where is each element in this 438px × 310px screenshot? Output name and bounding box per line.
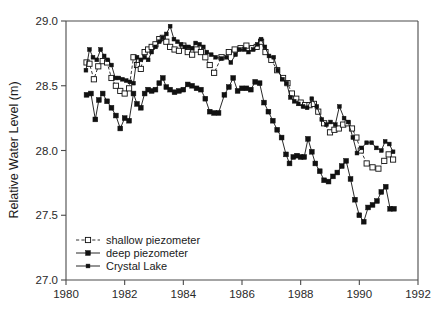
marker-open-square (198, 49, 203, 54)
marker-filled-square (262, 100, 267, 105)
marker-filled-dot (370, 141, 374, 145)
marker-filled-square (244, 86, 249, 91)
marker-open-square (126, 86, 131, 91)
marker-filled-square (222, 92, 227, 97)
marker-filled-dot (164, 32, 168, 36)
y-tick-label: 27.5 (36, 209, 58, 221)
marker-filled-square (375, 199, 380, 204)
marker-open-square (91, 77, 96, 82)
marker-filled-square (306, 136, 311, 141)
marker-filled-dot (379, 149, 383, 153)
x-tick-label: 1988 (288, 288, 314, 300)
marker-filled-dot (292, 99, 296, 103)
marker-filled-dot (342, 116, 346, 120)
marker-filled-dot (220, 57, 224, 61)
marker-filled-dot (143, 55, 147, 59)
marker-open-square (226, 49, 231, 54)
marker-filled-dot (276, 68, 280, 72)
marker-filled-square (160, 76, 165, 81)
x-tick-label: 1980 (53, 288, 79, 300)
marker-filled-dot (285, 81, 289, 85)
marker-filled-square (172, 90, 177, 95)
marker-filled-dot (305, 106, 309, 110)
marker-filled-square (326, 179, 331, 184)
marker-filled-dot (205, 50, 209, 54)
marker-filled-dot (102, 54, 106, 58)
marker-filled-dot (320, 118, 324, 122)
marker-filled-dot (95, 58, 99, 62)
marker-filled-dot (187, 45, 191, 49)
marker-filled-dot (315, 105, 319, 109)
marker-filled-square (331, 174, 336, 179)
marker-filled-square (302, 155, 307, 160)
marker-filled-square (257, 81, 262, 86)
marker-filled-square (181, 87, 186, 92)
marker-filled-square (177, 89, 182, 94)
marker-filled-square (270, 118, 275, 123)
marker-filled-dot (198, 42, 202, 46)
series-line-1 (87, 78, 394, 222)
series-deep-piezometer (84, 76, 396, 225)
x-tick-label: 1984 (171, 288, 197, 300)
marker-filled-dot (179, 42, 183, 46)
marker-filled-dot (172, 37, 176, 41)
marker-open-square (370, 165, 375, 170)
marker-filled-square (131, 91, 136, 96)
marker-open-square (364, 161, 369, 166)
marker-filled-dot (225, 55, 229, 59)
marker-filled-dot (84, 68, 88, 72)
marker-filled-dot (146, 58, 150, 62)
marker-filled-square (348, 177, 353, 182)
marker-open-square (96, 64, 101, 69)
marker-filled-square (96, 98, 101, 103)
marker-filled-square (253, 79, 258, 84)
marker-filled-dot (238, 48, 242, 52)
y-tick-label: 27.0 (36, 274, 58, 286)
marker-filled-square (100, 91, 105, 96)
marker-filled-square (279, 135, 284, 140)
marker-filled-dot (110, 63, 114, 67)
marker-filled-dot (157, 40, 161, 44)
marker-filled-square (203, 96, 208, 101)
marker-filled-square (361, 219, 366, 224)
marker-filled-dot (374, 146, 378, 150)
marker-filled-dot (337, 105, 341, 109)
marker-filled-dot (289, 96, 293, 100)
marker-filled-square (287, 161, 292, 166)
marker-open-square (113, 83, 118, 88)
chart-figure: 27.027.528.028.529.019801982198419861988… (0, 0, 438, 310)
marker-filled-dot (229, 61, 233, 65)
marker-filled-dot (209, 53, 213, 57)
marker-filled-square (313, 161, 318, 166)
marker-filled-dot (301, 105, 305, 109)
marker-filled-dot (281, 77, 285, 81)
marker-filled-square (109, 105, 114, 110)
marker-filled-square (127, 118, 132, 123)
marker-filled-square (266, 109, 271, 114)
marker-filled-square (392, 206, 397, 211)
marker-filled-dot (214, 55, 218, 59)
marker-filled-dot (201, 45, 205, 49)
series-shallow-piezometer (84, 35, 396, 171)
marker-filled-dot (161, 36, 165, 40)
marker-filled-square (216, 111, 221, 116)
marker-filled-square (212, 111, 217, 116)
marker-filled-square (194, 86, 199, 91)
marker-filled-square (122, 116, 127, 121)
marker-filled-dot (355, 151, 359, 155)
marker-filled-square (240, 86, 245, 91)
marker-filled-square (93, 117, 98, 122)
marker-filled-square (357, 213, 362, 218)
chart-legend: shallow piezometerdeep piezometerCrystal… (76, 234, 200, 272)
marker-filled-dot (190, 46, 194, 50)
marker-filled-square (235, 89, 240, 94)
marker-filled-square (370, 202, 375, 207)
marker-filled-dot (150, 50, 154, 54)
marker-open-square (122, 91, 127, 96)
marker-filled-dot (86, 264, 90, 268)
marker-open-square (382, 158, 387, 163)
x-tick-label: 1982 (112, 288, 138, 300)
chart-canvas: 27.027.528.028.529.019801982198419861988… (0, 0, 438, 310)
marker-filled-dot (251, 48, 255, 52)
marker-filled-square (185, 82, 190, 87)
